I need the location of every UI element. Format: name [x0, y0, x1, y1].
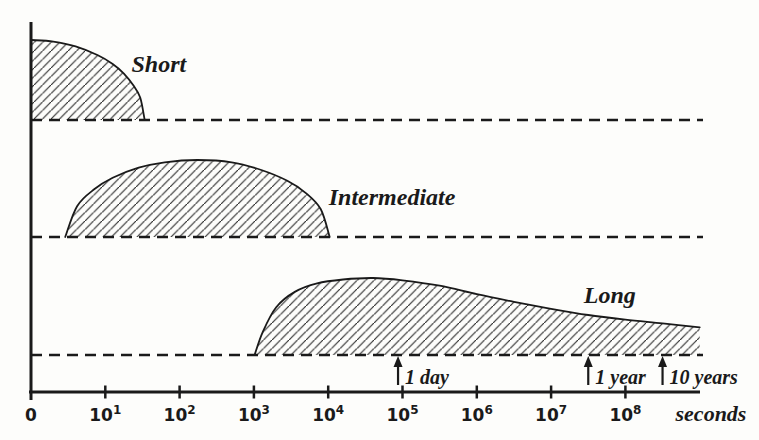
- annotation-label-10-years: 10 years: [670, 366, 739, 389]
- area-short: [31, 40, 145, 120]
- annotation-arrow-head-10-years: [658, 356, 667, 367]
- tick-label-10e7: 107: [535, 403, 567, 425]
- chart-content: 0101102103104105106107108secondsShortInt…: [25, 22, 746, 426]
- tick-label-10e2: 102: [164, 403, 196, 425]
- series-label-intermediate: Intermediate: [328, 184, 456, 210]
- tick-label-10e3: 103: [238, 403, 270, 425]
- series-label-long: Long: [583, 282, 636, 308]
- annotation-arrow-head-1-day: [394, 356, 403, 367]
- tick-label-10e4: 104: [312, 403, 344, 425]
- annotation-label-1-day: 1 day: [405, 366, 449, 389]
- annotation-label-1-year: 1 year: [595, 366, 646, 389]
- memory-duration-figure: 0101102103104105106107108secondsShortInt…: [0, 0, 759, 440]
- chart-canvas: 0101102103104105106107108secondsShortInt…: [0, 0, 759, 440]
- tick-label-10e5: 105: [386, 403, 418, 425]
- tick-label-10e6: 106: [461, 403, 493, 425]
- tick-label-origin: 0: [25, 405, 37, 425]
- tick-label-10e8: 108: [609, 403, 641, 425]
- area-intermediate: [65, 160, 330, 237]
- x-axis-unit-label: seconds: [675, 401, 747, 426]
- series-label-short: Short: [131, 51, 187, 77]
- tick-label-10e1: 101: [89, 403, 121, 425]
- annotation-arrow-head-1-year: [584, 356, 593, 367]
